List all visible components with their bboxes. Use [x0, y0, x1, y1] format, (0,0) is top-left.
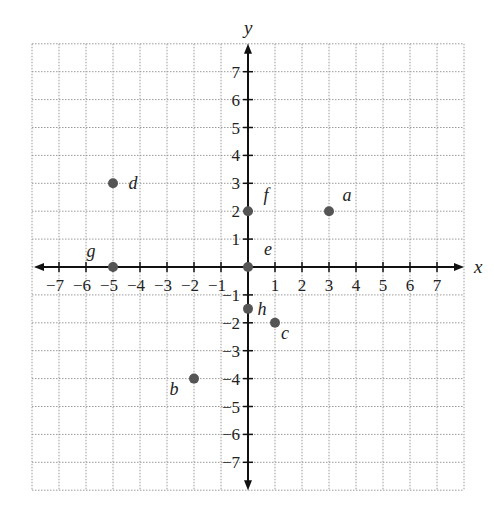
point-marker-icon — [189, 374, 199, 384]
x-tick-label: 4 — [352, 276, 361, 295]
x-tick-label: 6 — [406, 276, 415, 295]
point-marker-icon — [108, 262, 118, 272]
y-tick-label: 1 — [232, 230, 241, 249]
x-axis-arrow-left-icon — [34, 263, 44, 271]
x-tick-label: −7 — [46, 276, 65, 295]
y-tick-label: −4 — [222, 370, 241, 389]
y-tick-label: −7 — [222, 453, 241, 472]
y-tick-label: 7 — [232, 63, 241, 82]
y-axis-arrow-up-icon — [244, 44, 252, 54]
point-label: h — [258, 299, 267, 319]
x-tick-label: 3 — [325, 276, 334, 295]
y-tick-label: −6 — [222, 425, 240, 444]
x-tick-label: −4 — [127, 276, 146, 295]
y-tick-label: −2 — [222, 314, 240, 333]
x-tick-label: 2 — [298, 276, 307, 295]
x-axis-label: x — [473, 256, 483, 277]
x-tick-label: −5 — [100, 276, 118, 295]
point-marker-icon — [324, 206, 334, 216]
point-label: a — [343, 185, 352, 205]
point-marker-icon — [270, 318, 280, 328]
coordinate-plane: −7−6−5−4−3−2−11234567−7−6−5−4−3−2−112345… — [0, 0, 494, 521]
point-label: g — [87, 241, 96, 261]
point-label: c — [281, 323, 289, 343]
y-tick-label: 5 — [232, 119, 241, 138]
y-axis-arrow-down-icon — [244, 480, 252, 490]
point-h: h — [243, 299, 267, 319]
point-marker-icon — [108, 178, 118, 188]
point-marker-icon — [243, 304, 253, 314]
y-tick-label: −5 — [222, 398, 240, 417]
point-label: d — [129, 173, 139, 193]
y-tick-label: −1 — [222, 286, 240, 305]
x-tick-label: 5 — [379, 276, 388, 295]
x-tick-label: 1 — [271, 276, 280, 295]
point-b: b — [170, 374, 200, 399]
point-c: c — [270, 318, 289, 343]
y-axis-label: y — [242, 17, 253, 38]
x-tick-label: −3 — [154, 276, 172, 295]
y-tick-label: −3 — [222, 342, 240, 361]
y-tick-label: 2 — [232, 202, 241, 221]
y-tick-label: 3 — [232, 174, 241, 193]
x-tick-label: 7 — [433, 276, 442, 295]
y-tick-label: 6 — [232, 91, 241, 110]
point-label: e — [264, 239, 272, 259]
point-label: f — [263, 185, 271, 205]
y-tick-label: 4 — [232, 146, 241, 165]
x-tick-label: −2 — [181, 276, 199, 295]
point-marker-icon — [243, 206, 253, 216]
x-axis-arrow-right-icon — [454, 263, 464, 271]
point-label: b — [170, 379, 179, 399]
x-tick-label: −6 — [73, 276, 91, 295]
point-marker-icon — [243, 262, 253, 272]
